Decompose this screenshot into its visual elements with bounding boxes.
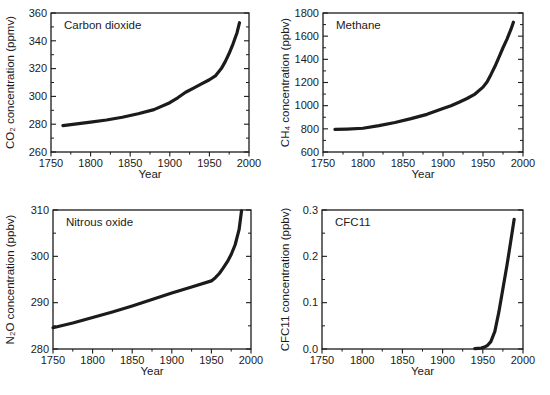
svg-text:0.1: 0.1 <box>303 296 318 308</box>
svg-text:1900: 1900 <box>160 354 184 366</box>
CFC11-curve <box>475 219 514 348</box>
svg-text:2000: 2000 <box>511 354 535 366</box>
svg-text:0.2: 0.2 <box>303 250 318 262</box>
svg-text:1900: 1900 <box>158 157 182 169</box>
svg-text:1600: 1600 <box>295 30 319 42</box>
svg-text:1800: 1800 <box>351 157 375 169</box>
svg-text:290: 290 <box>31 296 49 308</box>
svg-text:1900: 1900 <box>430 354 454 366</box>
svg-text:300: 300 <box>29 90 47 102</box>
svg-text:1750: 1750 <box>311 157 335 169</box>
cfc11-x-axis-label: Year <box>322 365 523 377</box>
greenhouse-gas-figure: 2602803003203403601750180018501900195020… <box>0 0 550 395</box>
svg-text:1900: 1900 <box>431 157 455 169</box>
svg-text:1750: 1750 <box>310 354 334 366</box>
svg-text:1950: 1950 <box>471 354 495 366</box>
svg-text:1800: 1800 <box>80 354 104 366</box>
svg-text:1750: 1750 <box>39 157 63 169</box>
svg-text:1950: 1950 <box>471 157 495 169</box>
svg-text:0.3: 0.3 <box>303 204 318 216</box>
svg-text:2000: 2000 <box>239 354 263 366</box>
co2-panel: 2602803003203403601750180018501900195020… <box>0 0 275 198</box>
svg-text:310: 310 <box>31 204 49 216</box>
cfc11-chart-title: CFC11 <box>335 216 371 228</box>
svg-text:1950: 1950 <box>197 157 221 169</box>
y-axis-label: CFC11 concentration (ppbv) <box>279 208 291 352</box>
y-axis-label: CH₄ concentration (ppbv) <box>279 18 291 148</box>
methane-panel: 6008001000120014001600180017501800185019… <box>275 0 550 198</box>
svg-text:1400: 1400 <box>295 53 319 65</box>
svg-text:2000: 2000 <box>237 157 261 169</box>
svg-text:300: 300 <box>31 250 49 262</box>
svg-text:1800: 1800 <box>78 157 102 169</box>
y-axis-label: CO₂ concentration (ppmv) <box>4 16 16 149</box>
svg-text:1850: 1850 <box>118 157 142 169</box>
svg-text:1800: 1800 <box>295 7 319 19</box>
svg-text:1750: 1750 <box>41 354 65 366</box>
svg-text:1850: 1850 <box>391 157 415 169</box>
nitrous-oxide-chart-title: Nitrous oxide <box>66 216 133 228</box>
svg-text:1850: 1850 <box>390 354 414 366</box>
CO2-curve <box>63 23 240 126</box>
nitrous-oxide-panel: 280290300310175018001850190019502000N₂O … <box>0 198 275 395</box>
svg-text:280: 280 <box>29 118 47 130</box>
N2O-curve <box>53 211 242 328</box>
svg-text:1800: 1800 <box>350 354 374 366</box>
svg-text:800: 800 <box>301 123 319 135</box>
y-axis-label: N₂O concentration (ppbv) <box>4 214 16 344</box>
svg-text:1850: 1850 <box>120 354 144 366</box>
cfc11-panel: 0.00.10.20.3175018001850190019502000CFC1… <box>275 198 550 395</box>
CH4-curve <box>335 22 513 129</box>
nitrous-oxide-x-axis-label: Year <box>53 365 251 377</box>
svg-text:1000: 1000 <box>295 99 319 111</box>
svg-text:2000: 2000 <box>511 157 535 169</box>
svg-text:1200: 1200 <box>295 76 319 88</box>
svg-text:1950: 1950 <box>199 354 223 366</box>
co2-x-axis-label: Year <box>51 168 249 180</box>
methane-x-axis-label: Year <box>323 168 523 180</box>
svg-text:360: 360 <box>29 7 47 19</box>
methane-chart-title: Methane <box>336 19 381 31</box>
svg-text:320: 320 <box>29 62 47 74</box>
co2-chart-title: Carbon dioxide <box>64 19 141 31</box>
svg-text:340: 340 <box>29 35 47 47</box>
